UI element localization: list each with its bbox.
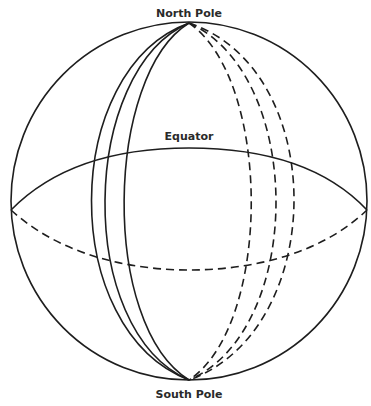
meridian-back-3 bbox=[189, 23, 294, 380]
globe-diagram: North Pole Equator South Pole bbox=[0, 0, 371, 406]
meridian-back-2 bbox=[189, 23, 276, 380]
sphere-outline bbox=[11, 22, 367, 380]
meridian-front-1 bbox=[91, 23, 189, 380]
north-pole-label: North Pole bbox=[156, 7, 222, 20]
equator-label: Equator bbox=[165, 130, 214, 143]
equator-front bbox=[11, 148, 367, 210]
meridian-back-1 bbox=[189, 23, 251, 380]
south-pole-label: South Pole bbox=[155, 388, 222, 401]
equator-back bbox=[11, 210, 367, 270]
